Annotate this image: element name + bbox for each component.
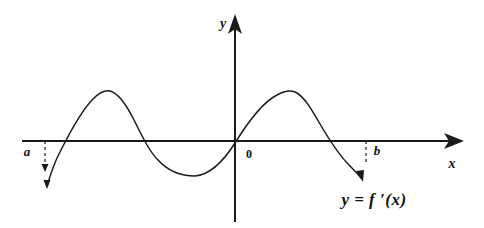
curve-start-arrow-icon bbox=[44, 180, 51, 189]
derivative-graph-figure: a b 0 y x y = f ′(x) bbox=[0, 0, 484, 228]
graph-canvas: a b 0 y x y = f ′(x) bbox=[0, 0, 484, 228]
label-a: a bbox=[24, 144, 31, 159]
curve-end-arrow-icon bbox=[356, 170, 364, 182]
label-b: b bbox=[374, 143, 381, 158]
arrow-down-icon-a bbox=[42, 164, 49, 172]
label-origin: 0 bbox=[246, 147, 252, 161]
derivative-curve bbox=[47, 91, 361, 186]
curve-equation-label: y = f ′(x) bbox=[339, 190, 406, 209]
label-y-axis: y bbox=[218, 16, 227, 31]
label-x-axis: x bbox=[448, 156, 456, 171]
